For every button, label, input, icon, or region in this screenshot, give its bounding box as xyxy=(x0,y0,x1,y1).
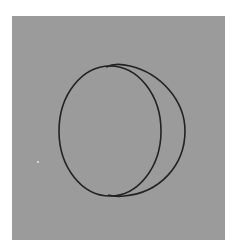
left-circle xyxy=(59,66,161,196)
crescent-drawing xyxy=(0,0,243,251)
image-stage xyxy=(0,0,243,251)
